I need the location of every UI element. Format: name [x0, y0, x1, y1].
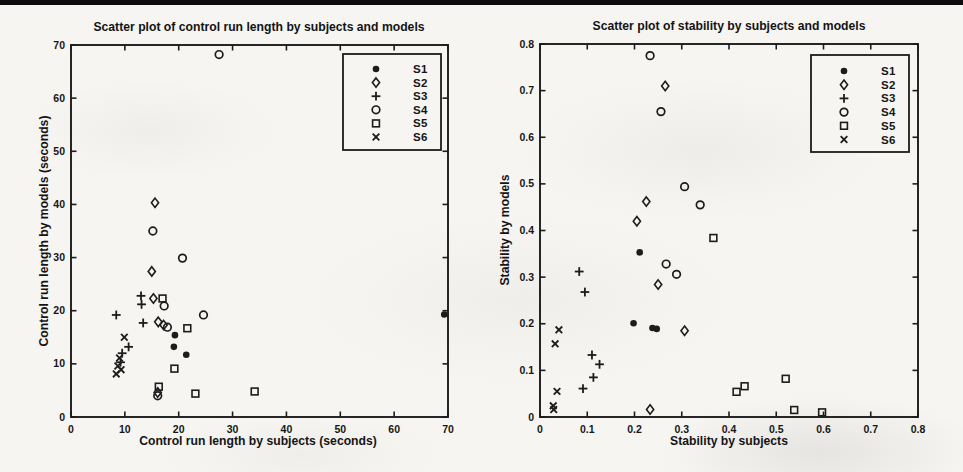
- series-S6-points: [113, 334, 128, 377]
- marker-circle: [662, 260, 670, 268]
- marker-filled-circle: [841, 68, 848, 75]
- marker-square: [791, 407, 798, 414]
- y-tick-label: 30: [53, 251, 65, 263]
- marker-circle: [657, 108, 665, 116]
- marker-plus: [124, 342, 133, 351]
- legend-label-S2: S2: [881, 79, 896, 91]
- marker-square: [782, 375, 789, 382]
- marker-filled-circle: [636, 249, 643, 256]
- marker-x: [121, 334, 128, 341]
- legend-label-S4: S4: [413, 104, 428, 116]
- marker-plus: [112, 311, 121, 320]
- marker-diamond: [151, 198, 158, 207]
- marker-square: [184, 325, 191, 332]
- marker-square: [251, 388, 258, 395]
- series-S4-points: [149, 51, 223, 400]
- x-axis-label-stability: Stability by subjects: [670, 434, 788, 448]
- legend-label-S4: S4: [881, 106, 896, 118]
- marker-circle: [215, 51, 223, 59]
- marker-square: [733, 388, 740, 395]
- legend-label-S1: S1: [413, 63, 428, 75]
- marker-circle: [673, 271, 681, 279]
- marker-plus: [589, 373, 598, 382]
- marker-circle: [681, 183, 689, 191]
- marker-diamond: [681, 326, 688, 335]
- marker-x: [113, 371, 120, 378]
- x-tick-label: 0: [537, 423, 543, 435]
- y-tick-label: 0.8: [519, 38, 534, 50]
- marker-circle: [160, 302, 168, 310]
- y-tick-label: 20: [53, 304, 65, 316]
- marker-x: [556, 327, 563, 334]
- y-tick-label: 70: [53, 39, 65, 51]
- marker-filled-circle: [373, 66, 380, 73]
- marker-plus: [137, 300, 146, 309]
- x-tick-label: 60: [388, 423, 400, 435]
- marker-diamond: [662, 81, 669, 90]
- chart-title-stability: Scatter plot of stability by subjects an…: [593, 19, 866, 33]
- marker-filled-circle: [172, 332, 179, 339]
- y-tick-label: 0.1: [519, 364, 534, 376]
- marker-plus: [575, 267, 584, 276]
- marker-square: [710, 235, 717, 242]
- legend-label-S6: S6: [413, 131, 428, 143]
- legend-label-S3: S3: [413, 90, 428, 102]
- x-tick-label: 0.1: [580, 423, 595, 435]
- y-tick-label: 50: [53, 145, 65, 157]
- y-tick-label: 10: [53, 357, 65, 369]
- marker-filled-circle: [441, 311, 448, 318]
- marker-filled-circle: [653, 326, 660, 333]
- legend-label-S1: S1: [881, 65, 896, 77]
- series-S3-points: [575, 267, 604, 393]
- marker-diamond: [655, 280, 662, 289]
- y-tick-label: 40: [53, 198, 65, 210]
- y-tick-label: 0.2: [519, 317, 534, 329]
- x-tick-label: 0.2: [627, 423, 642, 435]
- marker-diamond: [150, 294, 157, 303]
- marker-plus: [580, 288, 589, 297]
- marker-square: [192, 390, 199, 397]
- marker-plus: [588, 351, 597, 360]
- x-tick-label: 0: [68, 423, 74, 435]
- marker-circle: [149, 227, 157, 235]
- marker-diamond: [643, 197, 650, 206]
- y-tick-label: 0.4: [519, 224, 534, 236]
- marker-square: [159, 295, 166, 302]
- marker-diamond: [633, 216, 640, 225]
- marker-circle: [179, 254, 187, 262]
- marker-diamond: [148, 267, 155, 276]
- series-S1-points: [630, 249, 660, 332]
- marker-diamond: [646, 405, 653, 414]
- x-tick-label: 0.7: [863, 423, 878, 435]
- marker-square: [741, 383, 748, 390]
- marker-circle: [696, 201, 704, 209]
- y-tick-label: 0.7: [519, 84, 534, 96]
- marker-filled-circle: [171, 344, 178, 351]
- series-S2-points: [633, 81, 688, 414]
- legend-label-S5: S5: [413, 117, 428, 129]
- y-tick-label: 0: [59, 411, 65, 423]
- legend: S1S2S3S4S5S6: [343, 54, 441, 150]
- y-tick-label: 60: [53, 92, 65, 104]
- legend-label-S5: S5: [881, 120, 896, 132]
- series-S4-points: [646, 52, 704, 278]
- legend: S1S2S3S4S5S6: [811, 55, 909, 152]
- legend-label-S6: S6: [881, 134, 896, 146]
- x-tick-label: 0.6: [816, 423, 831, 435]
- marker-filled-circle: [183, 352, 190, 359]
- marker-square: [819, 409, 826, 416]
- series-S1-points: [171, 311, 448, 358]
- y-tick-label: 0.5: [519, 177, 534, 189]
- marker-plus: [139, 319, 148, 328]
- marker-circle: [200, 311, 208, 319]
- marker-x: [554, 388, 561, 395]
- legend-label-S2: S2: [413, 77, 428, 89]
- y-tick-label: 0: [528, 411, 534, 423]
- x-tick-label: 70: [442, 423, 454, 435]
- legend-label-S3: S3: [881, 92, 896, 104]
- scanned-figure-page: 010203040506070010203040506070S1S2S3S4S5…: [0, 0, 963, 472]
- marker-square: [171, 365, 178, 372]
- marker-plus: [595, 360, 604, 369]
- x-axis-label-control-run: Control run length by subjects (seconds): [139, 434, 377, 448]
- y-tick-label: 0.6: [519, 131, 534, 143]
